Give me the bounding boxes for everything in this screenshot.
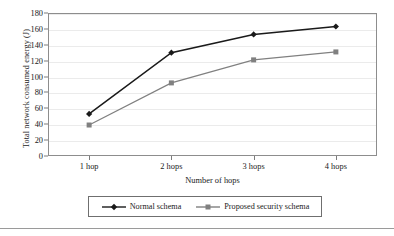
- square-marker-icon: [333, 49, 338, 54]
- y-axis-tick-label: 180: [3, 9, 43, 18]
- diamond-marker-icon: [251, 31, 257, 37]
- y-axis-tick-label: 160: [3, 24, 43, 33]
- x-axis-tick-label: 4 hops: [306, 162, 366, 171]
- x-axis-tick-label: 2 hops: [141, 162, 201, 171]
- square-marker-icon: [87, 123, 92, 128]
- square-marker-icon: [195, 202, 221, 212]
- y-axis-tick-mark: [44, 28, 48, 29]
- x-axis-title: Number of hops: [48, 176, 377, 185]
- y-axis-tick-label: 60: [3, 104, 43, 113]
- legend-item: Normal schema: [101, 202, 182, 212]
- y-axis-tick-mark: [44, 92, 48, 93]
- x-axis-tick-mark: [89, 156, 90, 160]
- page-divider: [0, 228, 394, 229]
- y-axis-tick-label: 40: [3, 120, 43, 129]
- x-axis-tick-label: 3 hops: [224, 162, 284, 171]
- y-axis-tick-label: 0: [3, 152, 43, 161]
- y-axis-tick-label: 100: [3, 72, 43, 81]
- y-axis-tick-label: 20: [3, 136, 43, 145]
- y-axis-tick-label: 120: [3, 56, 43, 65]
- diamond-marker-icon: [333, 23, 339, 29]
- x-axis-tick-label: 1 hop: [59, 162, 119, 171]
- x-axis-tick-mark: [171, 156, 172, 160]
- x-axis-tick-mark: [336, 156, 337, 160]
- chart-legend: Normal schemaProposed security schema: [88, 196, 322, 217]
- square-marker-icon: [251, 57, 256, 62]
- square-marker-icon: [169, 80, 174, 85]
- diamond-marker-icon: [101, 202, 127, 212]
- y-axis-tick-mark: [44, 13, 48, 14]
- y-axis-tick-mark: [44, 108, 48, 109]
- y-axis-tick-mark: [44, 60, 48, 61]
- legend-item: Proposed security schema: [195, 202, 309, 212]
- series-layer: [48, 13, 377, 156]
- x-axis-tick-mark: [254, 156, 255, 160]
- y-axis-tick-mark: [44, 76, 48, 77]
- series-line: [89, 52, 336, 125]
- chart-figure: Total network consumed energy (J) Number…: [0, 0, 394, 236]
- y-axis-tick-mark: [44, 44, 48, 45]
- y-axis-tick-mark: [44, 124, 48, 125]
- y-axis-tick-mark: [44, 156, 48, 157]
- y-axis-tick-label: 140: [3, 40, 43, 49]
- legend-label: Proposed security schema: [224, 202, 309, 211]
- legend-label: Normal schema: [130, 202, 182, 211]
- series-line: [89, 27, 336, 114]
- y-axis-tick-mark: [44, 140, 48, 141]
- y-axis-tick-label: 80: [3, 88, 43, 97]
